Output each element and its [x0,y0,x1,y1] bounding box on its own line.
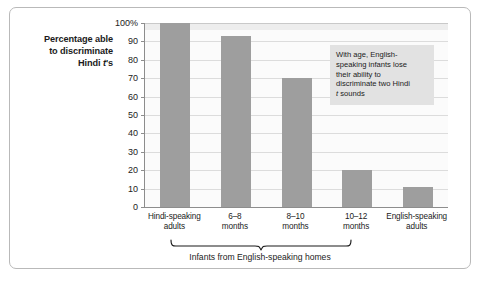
y-tick-label: 80 [128,55,138,65]
y-tick-label: 90 [128,36,138,46]
y-axis-title-line2: to discriminate [16,45,113,57]
y-tick-label: 0 [133,202,138,212]
chart-figure: Percentage able to discriminate Hindi t'… [0,0,482,284]
y-axis-title-line3-pre: Hindi [78,58,103,68]
bar [221,36,251,207]
bar [342,170,372,207]
y-axis-title-line3-post: 's [106,58,113,68]
x-axis-group-caption: Infants from English-speaking homes [110,252,410,262]
y-tick-label: 60 [128,92,138,102]
x-axis-label-line2: adults [380,222,453,232]
annotation-line2: speaking infants lose [336,60,407,69]
y-axis-title: Percentage able to discriminate Hindi t'… [16,33,113,70]
y-tick-mark [141,170,145,171]
annotation-line1: With age, English- [336,50,398,59]
y-tick-mark [141,189,145,190]
y-tick-mark [141,115,145,116]
y-tick-mark [141,60,145,61]
y-tick-label: 40 [128,128,138,138]
y-tick-mark [141,207,145,208]
group-brace-icon [170,239,352,251]
gridline [145,23,448,24]
y-tick-label: 30 [128,147,138,157]
y-axis-title-line3: Hindi t's [16,57,113,69]
x-axis-label-line1: English-speaking [380,212,453,222]
y-tick-label: 50 [128,110,138,120]
bar [160,23,190,207]
y-tick-label: 20 [128,165,138,175]
gridline [145,41,448,42]
y-tick-label: 100% [115,18,138,28]
y-tick-mark [141,133,145,134]
annotation-line5-post: sounds [338,89,365,98]
annotation-line4: discriminate two Hindi [336,79,410,88]
y-tick-mark [141,41,145,42]
y-axis-title-line1: Percentage able [16,33,113,45]
bar [282,78,312,207]
x-axis-label: English-speakingadults [380,212,453,233]
y-tick-mark [141,23,145,24]
plot-top-band [145,23,448,30]
y-tick-mark [141,78,145,79]
annotation-callout: With age, English- speaking infants lose… [330,45,434,105]
y-tick-label: 10 [128,184,138,194]
plot-area: 100%9080706050403020100 With age, Englis… [144,23,448,208]
y-tick-mark [141,97,145,98]
annotation-line3: their ability to [336,70,381,79]
bar [403,187,433,207]
y-tick-mark [141,152,145,153]
y-tick-label: 70 [128,73,138,83]
